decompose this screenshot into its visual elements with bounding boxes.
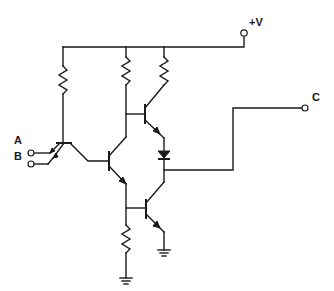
supply-terminal — [241, 30, 247, 36]
diode-d1 — [158, 151, 170, 182]
resistor-r2 — [122, 47, 130, 137]
input-b-terminal — [28, 161, 34, 167]
resistor-r3 — [160, 47, 168, 85]
transistor-q2 — [109, 137, 126, 225]
input-a-label: A — [14, 134, 22, 146]
transistor-q3 — [126, 85, 164, 150]
transistor-q1 — [34, 143, 108, 164]
supply-rail — [63, 30, 247, 47]
supply-label: +V — [249, 16, 263, 28]
transistor-q4 — [126, 182, 164, 250]
ground-r4 — [120, 278, 132, 284]
circuit-schematic: +V A B — [0, 0, 334, 291]
output-terminal — [302, 105, 308, 111]
resistor-r4 — [122, 225, 130, 278]
output-wire — [164, 105, 308, 170]
resistor-r1 — [59, 47, 67, 142]
input-b-label: B — [14, 150, 22, 162]
input-a-terminal — [28, 150, 34, 156]
output-label: C — [312, 91, 320, 103]
ground-q4 — [158, 250, 170, 256]
